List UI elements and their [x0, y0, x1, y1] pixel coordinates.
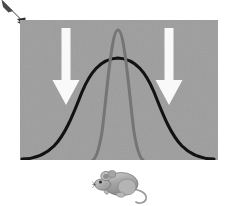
- mouse-hind-foot: [116, 192, 125, 197]
- curve-narrow-distribution: [93, 30, 143, 160]
- mouse-far-ear: [108, 170, 116, 177]
- plot-panel: [20, 20, 218, 160]
- figure-root: [0, 0, 228, 206]
- mouse-eye: [99, 181, 102, 184]
- arrow-down-icon: [154, 28, 184, 106]
- mouse-head: [94, 179, 111, 190]
- distribution-curves: [20, 20, 218, 160]
- arrow-down-icon: [51, 28, 81, 106]
- mouse-front-paw: [104, 190, 108, 194]
- mouse-illustration: [92, 163, 154, 206]
